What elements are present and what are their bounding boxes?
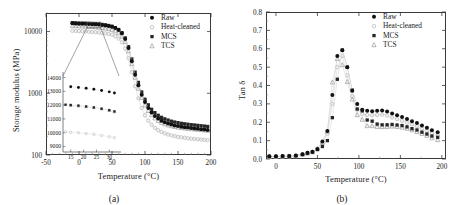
panel-b-data-point bbox=[405, 117, 409, 121]
panel-a-legend-marker-tcs bbox=[150, 44, 154, 48]
panel-b-yticklabel: 0.7 bbox=[253, 27, 262, 35]
panel-b-data-point bbox=[360, 108, 364, 112]
panel-a-inset-yticklabel: 10000 bbox=[47, 130, 61, 136]
panel-a-data-point bbox=[130, 59, 134, 63]
panel-b-series-heat-cleaned bbox=[268, 54, 440, 158]
panel-b-data-point bbox=[436, 136, 439, 139]
panel-b-data-point bbox=[315, 147, 319, 151]
panel-b-data-point bbox=[336, 78, 339, 81]
panel-b-yticklabel: 0.6 bbox=[253, 45, 262, 53]
panel-a-legend-marker-heat-cleaned bbox=[150, 26, 153, 29]
panel-a-inset-data-point bbox=[64, 104, 66, 106]
panel-b-data-point bbox=[326, 139, 329, 142]
panel-b-data-point bbox=[310, 150, 314, 154]
panel-b-data-point bbox=[400, 124, 403, 127]
panel-b-legend-label-raw: Raw bbox=[383, 12, 397, 21]
panel-a-data-point bbox=[117, 28, 121, 32]
panel-b-data-point bbox=[380, 123, 383, 126]
panel-a-inset-data-point bbox=[69, 85, 72, 88]
panel-a-inset-data-point bbox=[113, 92, 116, 95]
panel-a-inset-yticklabel: 14000 bbox=[47, 75, 61, 81]
panel-b-data-point bbox=[345, 65, 349, 69]
panel-a-inset-data-point bbox=[93, 106, 95, 108]
panel-a-data-point bbox=[196, 124, 199, 127]
panel-b-series-line bbox=[269, 59, 437, 157]
panel-b-y-axis-label: Tan δ bbox=[237, 81, 247, 100]
panel-a-series-line bbox=[72, 26, 207, 131]
figure-dma-storage-modulus-and-tan-delta: -500501001502001001000100009000100001100… bbox=[0, 0, 456, 205]
panel-a-data-point bbox=[203, 124, 206, 127]
panel-a-data-point bbox=[157, 114, 160, 117]
panel-a-data-point bbox=[140, 93, 144, 97]
panel-b-xticklabel: 0 bbox=[274, 163, 278, 171]
panel-a-data-point bbox=[127, 46, 131, 50]
panel-b-xticklabel: 150 bbox=[395, 163, 406, 171]
panel-a-data-point bbox=[170, 120, 173, 123]
panel-a-inset-data-point bbox=[85, 105, 87, 107]
panel-a-data-point bbox=[173, 123, 177, 127]
panel-a-data-point bbox=[120, 31, 124, 35]
panel-a-data-point bbox=[163, 117, 166, 120]
panel-a-inset-data-point bbox=[77, 104, 79, 106]
panel-b-data-point bbox=[320, 140, 324, 144]
panel-a-inset-data-point bbox=[113, 110, 115, 112]
panel-a-inset-data-point bbox=[108, 90, 111, 93]
panel-a-data-point bbox=[153, 114, 157, 118]
panel-b-data-point bbox=[330, 93, 334, 97]
panel-a-legend-label-mcs: MCS bbox=[161, 32, 177, 41]
panel-a-inset-data-point bbox=[92, 88, 95, 91]
panel-a-yticklabel: 100 bbox=[31, 152, 42, 160]
panel-b-series-tcs bbox=[267, 57, 440, 159]
panel-b-data-point bbox=[395, 113, 399, 117]
panel-a-inset-xticklabel: 25 bbox=[94, 154, 100, 160]
panel-a-inset-xticklabel: 15 bbox=[68, 154, 74, 160]
panel-b-x-axis-label: Temperature (°C) bbox=[266, 174, 446, 184]
panel-b-data-point bbox=[430, 128, 434, 132]
panel-a-data-point bbox=[173, 120, 176, 123]
panel-a-series-tcs bbox=[70, 24, 210, 133]
panel-b-data-point bbox=[385, 123, 388, 126]
panel-a-data-point bbox=[183, 122, 186, 125]
panel-b-legend-label-tcs: TCS bbox=[383, 40, 397, 49]
panel-a-inset-series-line bbox=[66, 132, 115, 138]
panel-a-inset-yticklabel: 11000 bbox=[47, 116, 61, 122]
panel-a-yticklabel: 10000 bbox=[24, 28, 42, 36]
panel-a-data-point bbox=[206, 125, 209, 128]
panel-a-legend: RawHeat-cleanedMCSTCS bbox=[150, 13, 200, 50]
panel-b-data-point bbox=[335, 54, 339, 58]
panel-a-data-point bbox=[176, 121, 179, 124]
panel-a-data-point bbox=[123, 37, 127, 41]
panel-b-data-point bbox=[281, 154, 285, 158]
panel-b-data-point bbox=[305, 151, 309, 155]
panel-a-inset-series-heat-cleaned bbox=[64, 131, 115, 139]
panel-a-series-line bbox=[72, 23, 207, 127]
panel-a-inset-data-point bbox=[85, 87, 88, 90]
panel-a-data-point bbox=[150, 110, 154, 114]
panel-b-data-point bbox=[355, 102, 359, 106]
panel-a-yticklabel: 1000 bbox=[28, 90, 43, 98]
panel-a-series-mcs bbox=[71, 21, 210, 128]
panel-b-data-point bbox=[321, 145, 324, 148]
panel-a-data-point bbox=[193, 123, 196, 126]
panel-a-data-point bbox=[199, 124, 202, 127]
panel-a-xticklabel: 50 bbox=[108, 159, 116, 167]
panel-a-data-point bbox=[160, 116, 163, 119]
panel-a-inset-series-raw bbox=[69, 85, 116, 94]
panel-a-inset-data-point bbox=[100, 108, 102, 110]
panel-a-data-point bbox=[153, 111, 156, 114]
panel-a-inset-xticklabel: 20 bbox=[81, 154, 87, 160]
panel-a-inset-data-point bbox=[77, 86, 80, 89]
panel-a-legend-label-raw: Raw bbox=[161, 13, 175, 22]
panel-a-data-point bbox=[103, 23, 107, 27]
panel-b-data-layer bbox=[267, 48, 440, 158]
panel-b-data-point bbox=[287, 154, 291, 158]
panel-b-data-point bbox=[370, 109, 374, 113]
panel-b-yticklabel: 0.5 bbox=[253, 64, 262, 72]
panel-a-data-point bbox=[133, 73, 137, 77]
panel-b-data-point bbox=[370, 124, 374, 128]
panel-a-xticklabel: 0 bbox=[77, 159, 81, 167]
panel-b-yticklabel: 0.1 bbox=[253, 137, 262, 145]
panel-a-series-raw bbox=[70, 21, 209, 132]
panel-b-data-point bbox=[405, 125, 408, 128]
panel-b-xticklabel: 100 bbox=[354, 163, 365, 171]
